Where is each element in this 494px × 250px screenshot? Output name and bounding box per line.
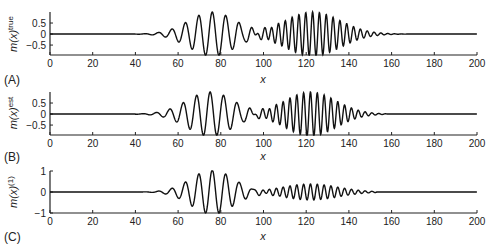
x-tick-label: 200 [469,138,486,149]
x-tick-label: 180 [426,58,443,69]
x-tick-label: 60 [173,216,185,227]
y-tick-label: 0.5 [32,18,46,29]
x-tick-label: 120 [298,216,315,227]
figure: 0.50−0.5 020406080100120140160180200 m(x… [0,0,494,250]
x-tick-label: 0 [47,216,53,227]
x-tick-label: 100 [255,216,272,227]
x-tick-label: 40 [130,138,142,149]
x-tick-label: 120 [298,138,315,149]
y-axis: 0.50−0.5 [26,92,53,135]
x-axis: 020406080100120140160180200 [47,132,486,149]
x-tick-label: 60 [173,58,185,69]
y-tick-label: 1 [40,166,46,177]
y-axis-label: m(x)est [6,96,20,129]
y-axis-label: m(x)true [6,16,20,52]
x-tick-label: 0 [47,58,53,69]
x-tick-label: 140 [341,216,358,227]
x-tick-label: 20 [87,138,99,149]
panel-c: 10−1 020406080100120140160180200 m(x)(1)… [4,166,486,245]
x-tick-label: 40 [130,58,142,69]
x-tick-label: 100 [255,138,272,149]
x-axis: 020406080100120140160180200 [47,210,486,227]
x-tick-label: 40 [130,216,142,227]
x-axis-label: x [259,150,266,162]
data-line [50,12,477,55]
x-tick-label: 80 [215,138,227,149]
y-tick-label: −1 [35,208,47,219]
y-tick-label: 0 [40,187,46,198]
y-axis: 0.50−0.5 [26,12,53,55]
y-tick-label: −0.5 [26,120,46,131]
x-tick-label: 20 [87,216,99,227]
panel-label: (C) [4,230,21,244]
panel-b: 0.50−0.5 020406080100120140160180200 m(x… [4,92,486,164]
x-tick-label: 120 [298,58,315,69]
data-line [50,92,477,135]
panel-label: (A) [4,73,20,87]
x-axis: 020406080100120140160180200 [47,52,486,69]
x-axis-label: x [259,230,266,242]
x-tick-label: 100 [255,58,272,69]
panel-label: (B) [4,150,20,164]
y-tick-label: 0.5 [32,98,46,109]
x-tick-label: 80 [215,216,227,227]
x-axis-label: x [259,73,266,85]
x-tick-label: 20 [87,58,99,69]
y-axis-label: m(x)(1) [6,176,20,208]
x-tick-label: 160 [383,216,400,227]
y-tick-label: −0.5 [26,40,46,51]
x-tick-label: 160 [383,58,400,69]
x-tick-label: 160 [383,138,400,149]
panel-a: 0.50−0.5 020406080100120140160180200 m(x… [4,12,486,87]
x-tick-label: 200 [469,58,486,69]
x-tick-label: 80 [215,58,227,69]
data-line [50,171,477,213]
x-tick-label: 140 [341,138,358,149]
x-tick-label: 180 [426,138,443,149]
y-tick-label: 0 [40,109,46,120]
x-tick-label: 200 [469,216,486,227]
x-tick-label: 140 [341,58,358,69]
y-tick-label: 0 [40,29,46,40]
x-tick-label: 0 [47,138,53,149]
x-tick-label: 60 [173,138,185,149]
x-tick-label: 180 [426,216,443,227]
